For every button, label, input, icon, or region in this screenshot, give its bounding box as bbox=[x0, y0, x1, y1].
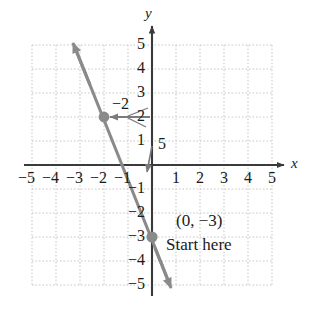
y-tick-3: 3 bbox=[137, 84, 145, 100]
rise-annotation: 5 bbox=[158, 136, 166, 152]
start-here-annotation: Start here bbox=[166, 236, 232, 253]
y-tick-5: 5 bbox=[137, 36, 145, 52]
point-marker-minus2-2 bbox=[99, 112, 110, 123]
y-tick-minus4: −4 bbox=[128, 252, 145, 268]
y-axis-label: y bbox=[145, 6, 152, 21]
run-annotation: −2 bbox=[112, 96, 129, 112]
graph-figure: x y −5 −4 −3 −2 −1 1 2 3 4 5 5 4 3 2 1 −… bbox=[0, 0, 312, 309]
x-tick-3: 3 bbox=[220, 170, 228, 186]
y-tick-4: 4 bbox=[137, 60, 145, 76]
y-tick-minus3: −3 bbox=[128, 228, 145, 244]
y-tick-1: 1 bbox=[137, 132, 145, 148]
y-tick-minus5: −5 bbox=[128, 276, 145, 292]
coordinate-plane-svg bbox=[0, 0, 312, 309]
axis-lines bbox=[24, 26, 284, 296]
point-marker-0-minus3 bbox=[146, 231, 157, 242]
y-tick-2: 2 bbox=[137, 108, 145, 124]
x-tick-4: 4 bbox=[244, 170, 252, 186]
y-tick-minus1: −1 bbox=[128, 180, 145, 196]
x-axis-label: x bbox=[291, 156, 298, 171]
x-tick-minus5: −5 bbox=[18, 170, 35, 186]
point-annotation: (0, −3) bbox=[176, 212, 222, 229]
x-tick-minus3: −3 bbox=[66, 170, 83, 186]
x-tick-2: 2 bbox=[196, 170, 204, 186]
x-tick-1: 1 bbox=[172, 170, 180, 186]
x-tick-minus4: −4 bbox=[42, 170, 59, 186]
x-tick-minus2: −2 bbox=[90, 170, 107, 186]
y-tick-minus2: −2 bbox=[128, 204, 145, 220]
x-tick-5: 5 bbox=[268, 170, 276, 186]
